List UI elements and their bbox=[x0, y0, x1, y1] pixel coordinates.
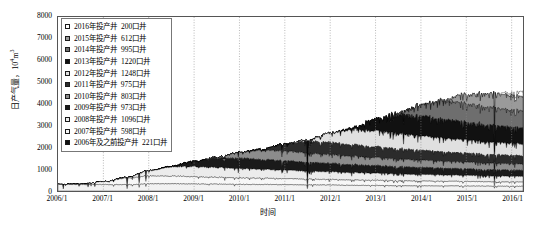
legend-swatch-icon bbox=[65, 36, 70, 41]
legend-swatch-icon bbox=[65, 105, 70, 110]
y-axis-tick-label: 8000 bbox=[24, 12, 52, 20]
gas-production-stacked-area-figure: 日产气量，104m3 80007000600050004000300020001… bbox=[0, 0, 536, 239]
y-axis-title-exponent: 4 bbox=[9, 59, 15, 62]
legend-item: 2012年投产井1248口井 bbox=[65, 67, 167, 79]
legend-item-count: 221口井 bbox=[142, 138, 167, 147]
legend-item-count: 995口井 bbox=[121, 45, 146, 54]
x-axis-tick-label: 2012/1 bbox=[320, 194, 341, 203]
legend-item-label: 2012年投产井 bbox=[74, 69, 117, 78]
legend-item-label: 2009年投产井 bbox=[74, 103, 117, 112]
y-axis-title-text: 日产气量，10 bbox=[11, 62, 20, 110]
legend-swatch-icon bbox=[65, 140, 70, 145]
x-axis-tick-label: 2015/1 bbox=[457, 194, 478, 203]
x-axis-tick-label: 2008/1 bbox=[138, 194, 159, 203]
legend-item-label: 2006年及之前投产井 bbox=[74, 138, 138, 147]
legend-item-count: 1248口井 bbox=[121, 69, 150, 78]
legend-swatch-icon bbox=[65, 94, 70, 99]
y-axis-tick-label: 1000 bbox=[24, 166, 52, 174]
legend-item-label: 2015年投产井 bbox=[74, 34, 117, 43]
legend-swatch-icon bbox=[65, 24, 70, 29]
chart-legend: 2016年投产井200口井2015年投产井612口井2014年投产井995口井2… bbox=[61, 18, 172, 152]
y-axis-tick-label: 2000 bbox=[24, 144, 52, 152]
y-axis-title-exponent2: 3 bbox=[9, 49, 15, 52]
x-axis-tick-label: 2007/1 bbox=[92, 194, 113, 203]
legend-item: 2015年投产井612口井 bbox=[65, 33, 167, 45]
legend-item-label: 2010年投产井 bbox=[74, 92, 117, 101]
legend-swatch-icon bbox=[65, 59, 70, 64]
y-axis-tick-label: 7000 bbox=[24, 34, 52, 42]
legend-item: 2014年投产井995口井 bbox=[65, 44, 167, 56]
legend-item-label: 2007年投产井 bbox=[74, 127, 117, 136]
y-axis-tick-label: 4000 bbox=[24, 100, 52, 108]
x-axis-tick-label: 2010/1 bbox=[229, 194, 250, 203]
legend-item: 2013年投产井1220口井 bbox=[65, 56, 167, 68]
legend-item-label: 2016年投产井 bbox=[74, 22, 117, 31]
y-axis-tick-label: 5000 bbox=[24, 78, 52, 86]
legend-item-count: 598口井 bbox=[121, 127, 146, 136]
x-axis-tick-label: 2016/1 bbox=[502, 194, 523, 203]
y-axis-tick-label: 3000 bbox=[24, 122, 52, 130]
legend-item-label: 2014年投产井 bbox=[74, 45, 117, 54]
legend-item-count: 200口井 bbox=[121, 22, 146, 31]
legend-item-label: 2013年投产井 bbox=[74, 57, 117, 66]
legend-item: 2010年投产井803口井 bbox=[65, 91, 167, 103]
legend-item: 2006年及之前投产井221口井 bbox=[65, 137, 167, 149]
legend-item-count: 1096口井 bbox=[121, 115, 150, 124]
legend-item: 2007年投产井598口井 bbox=[65, 125, 167, 137]
legend-item-label: 2008年投产井 bbox=[74, 115, 117, 124]
legend-item-label: 2011年投产井 bbox=[74, 80, 117, 89]
legend-item: 2016年投产井200口井 bbox=[65, 21, 167, 33]
y-axis-title: 日产气量，104m3 bbox=[9, 20, 20, 140]
legend-item-count: 612口井 bbox=[121, 34, 146, 43]
legend-item-count: 973口井 bbox=[121, 103, 146, 112]
legend-item-count: 803口井 bbox=[121, 92, 146, 101]
x-axis-title: 时间 bbox=[0, 206, 536, 217]
legend-swatch-icon bbox=[65, 129, 70, 134]
legend-swatch-icon bbox=[65, 117, 70, 122]
legend-item-count: 1220口井 bbox=[121, 57, 150, 66]
x-axis-tick-label: 2011/1 bbox=[275, 194, 296, 203]
legend-item: 2011年投产井975口井 bbox=[65, 79, 167, 91]
x-axis-tick-label: 2009/1 bbox=[183, 194, 204, 203]
legend-item: 2008年投产井1096口井 bbox=[65, 114, 167, 126]
x-axis-tick-label: 2013/1 bbox=[366, 194, 387, 203]
x-axis-tick-label: 2014/1 bbox=[411, 194, 432, 203]
y-axis-tick-label: 6000 bbox=[24, 56, 52, 64]
legend-swatch-icon bbox=[65, 71, 70, 76]
legend-swatch-icon bbox=[65, 82, 70, 87]
legend-item-count: 975口井 bbox=[121, 80, 146, 89]
legend-item: 2009年投产井973口井 bbox=[65, 102, 167, 114]
legend-swatch-icon bbox=[65, 47, 70, 52]
x-axis-tick-label: 2006/1 bbox=[47, 194, 68, 203]
y-axis-title-unit: m bbox=[11, 52, 20, 58]
